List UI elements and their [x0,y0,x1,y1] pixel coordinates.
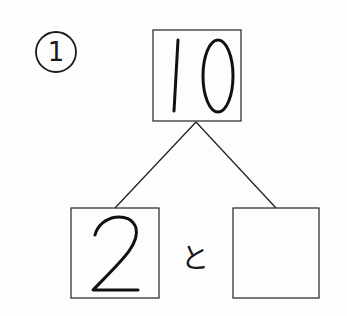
number-bond-diagram: 1 10 2 と [0,0,347,316]
handwritten-digit-2 [93,217,138,290]
bond-line-left [115,122,196,208]
whole-box: 10 [153,30,241,121]
whole-value: 10 [196,89,198,91]
bond-line-right [196,122,276,208]
part-left-value: 2 [115,259,116,260]
part-box-right[interactable] [233,208,319,298]
problem-number-label: 1 [48,37,65,67]
connector-to: と [181,242,209,275]
handwritten-digit-0 [203,40,233,112]
handwritten-digit-1 [174,40,178,111]
answer-box[interactable] [233,208,319,298]
problem-number: 1 [36,32,76,72]
part-box-left: 2 [71,208,159,298]
